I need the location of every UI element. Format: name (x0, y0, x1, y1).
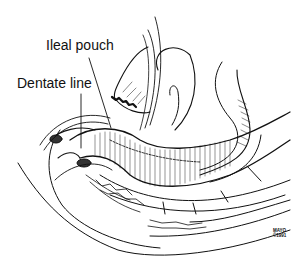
credit-year: ©1991 (273, 234, 286, 239)
uterus-inner (170, 86, 179, 125)
ileal-pouch-top (70, 112, 290, 148)
copyright-credit: MAYO ©1991 (273, 229, 286, 238)
illustration-canvas: Ileal pouch Dentate line MAYO ©1991 (0, 0, 301, 265)
ileal-pouch-label: Ileal pouch (46, 38, 114, 52)
sacral-lower (150, 210, 290, 236)
sacrum-inner (110, 195, 285, 211)
dentate-line-label: Dentate line (17, 76, 92, 90)
vertebra-dividers (163, 166, 261, 214)
abdominal-wall-outer (200, 62, 238, 170)
buttock-contour (49, 130, 160, 248)
abdominal-hatching (237, 100, 250, 146)
pouch-hatching (95, 132, 230, 186)
anal-canal-lower (58, 153, 80, 158)
mesentery-cut-edge (112, 97, 136, 107)
ileal-pouch-leader (89, 58, 111, 128)
mesentery-outline (114, 47, 150, 113)
